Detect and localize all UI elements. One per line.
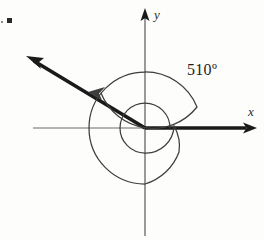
coordinate-axes: y x bbox=[33, 7, 257, 236]
angle-measure-label: 510º bbox=[187, 61, 217, 78]
problem-list-marker bbox=[7, 18, 12, 23]
x-axis-label: x bbox=[247, 104, 254, 119]
y-axis-label: y bbox=[152, 7, 160, 22]
angle-svg-canvas: y x 510º bbox=[0, 0, 264, 240]
problem-marker-speck bbox=[1, 21, 3, 23]
angle-diagram-figure: y x 510º bbox=[0, 0, 264, 240]
